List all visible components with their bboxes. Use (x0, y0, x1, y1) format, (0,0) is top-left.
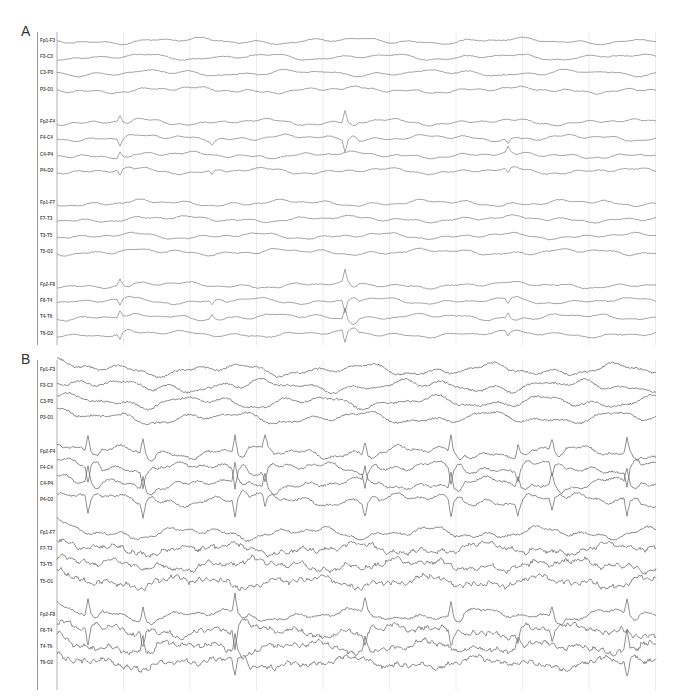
panel-b-letter: B (21, 351, 30, 367)
eeg-trace (57, 358, 656, 378)
channel-label: P4-O2 (40, 168, 53, 174)
channel-label: T6-O2 (40, 660, 53, 666)
channel-label: C4-P4 (40, 481, 53, 487)
eeg-trace (57, 378, 656, 394)
panel-a-letter: A (21, 23, 30, 39)
panel-b-border (37, 360, 38, 690)
eeg-trace (57, 296, 656, 313)
channel-label: T4-T6 (40, 644, 52, 650)
eeg-trace (57, 408, 656, 425)
channel-label: Fp2-F8 (40, 612, 55, 618)
eeg-trace (57, 248, 656, 256)
channel-label: T4-T6 (40, 314, 52, 320)
eeg-trace (57, 567, 656, 590)
channel-label: P3-O1 (40, 415, 53, 421)
channel-label: F7-T3 (40, 216, 52, 222)
eeg-trace (57, 37, 656, 45)
eeg-trace (57, 518, 656, 542)
eeg-trace (57, 54, 656, 60)
channel-label: T5-O1 (40, 579, 53, 585)
channel-label: C3-P3 (40, 70, 53, 76)
channel-label: T6-O2 (40, 331, 53, 337)
eeg-figure: A Fp1-F3F3-C3C3-P3P3-O1Fp2-F4F4-C4C4-P4P… (0, 0, 677, 699)
eeg-trace (57, 435, 656, 462)
channel-label: Fp1-F3 (40, 367, 55, 373)
channel-label: F3-C3 (40, 54, 53, 60)
eeg-trace (57, 490, 656, 518)
channel-label: T5-O1 (40, 249, 53, 255)
channel-label: Fp1-F7 (40, 200, 55, 206)
eeg-trace (57, 111, 656, 127)
channel-label: Fp2-F8 (40, 282, 55, 288)
eeg-trace (57, 619, 656, 650)
channel-label: P4-O2 (40, 497, 53, 503)
channel-label: Fp2-F4 (40, 449, 55, 455)
eeg-trace (57, 134, 656, 152)
channel-label: F7-T3 (40, 546, 52, 552)
channel-label: P3-O1 (40, 87, 53, 93)
panel-a-border (37, 32, 38, 345)
channel-label: F4-C4 (40, 465, 53, 471)
eeg-trace (57, 69, 656, 77)
channel-label: F3-C3 (40, 383, 53, 389)
eeg-trace (57, 328, 656, 342)
channel-label: Fp1-F3 (40, 38, 55, 44)
channel-label: F4-C4 (40, 135, 53, 141)
eeg-trace (57, 215, 656, 224)
eeg-trace (57, 86, 656, 95)
channel-label: Fp1-F7 (40, 530, 55, 536)
channel-label: F8-T4 (40, 628, 52, 634)
eeg-trace (57, 308, 656, 325)
eeg-trace (57, 199, 656, 207)
channel-label: C4-P4 (40, 152, 53, 158)
eeg-trace (57, 232, 656, 240)
eeg-trace (57, 458, 656, 489)
channel-label: T3-T5 (40, 562, 52, 568)
eeg-trace (57, 269, 656, 289)
channel-label: F8-T4 (40, 298, 52, 304)
eeg-trace (57, 593, 656, 625)
eeg-traces (0, 0, 677, 699)
eeg-trace (57, 146, 656, 159)
channel-label: Fp2-F4 (40, 119, 55, 125)
channel-label: C3-P3 (40, 399, 53, 405)
eeg-trace (57, 462, 656, 495)
eeg-trace (57, 392, 656, 410)
eeg-trace (57, 539, 656, 558)
eeg-trace (57, 167, 656, 175)
channel-label: T3-T5 (40, 233, 52, 239)
